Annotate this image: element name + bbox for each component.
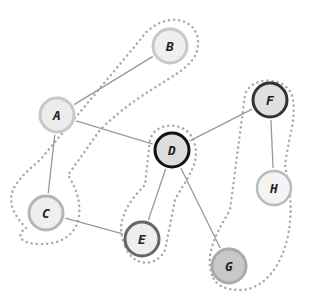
node-label: C <box>42 206 50 221</box>
node-label: B <box>165 39 174 54</box>
edge-d-e <box>148 169 165 220</box>
node-c[interactable]: C <box>29 196 63 230</box>
node-h[interactable]: H <box>257 171 291 205</box>
edge-f-h <box>271 120 273 168</box>
edge-d-g <box>181 168 220 248</box>
node-g[interactable]: G <box>212 249 246 283</box>
node-label: F <box>266 93 275 108</box>
node-label: H <box>269 181 278 196</box>
edge-a-c <box>48 135 55 193</box>
node-f[interactable]: F <box>253 83 287 117</box>
node-d[interactable]: D <box>155 133 189 167</box>
edge-c-e <box>65 218 122 234</box>
node-b[interactable]: B <box>153 29 187 63</box>
node-label: A <box>52 108 61 123</box>
edge-a-b <box>74 56 153 104</box>
node-e[interactable]: E <box>125 222 159 256</box>
node-a[interactable]: A <box>40 98 74 132</box>
edge-d-f <box>190 109 252 141</box>
edge-a-d <box>76 121 153 144</box>
node-label: D <box>167 143 176 158</box>
graph-canvas: ABCDEFGH <box>0 0 312 308</box>
node-label: E <box>138 232 146 247</box>
graph-diagram: ABCDEFGH <box>0 0 312 308</box>
node-label: G <box>225 259 233 274</box>
